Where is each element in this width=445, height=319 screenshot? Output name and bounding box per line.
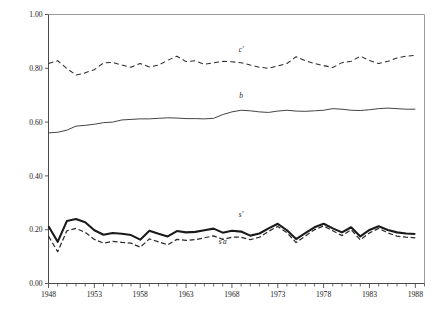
x-tick-label: 1963	[178, 290, 193, 299]
x-axis-tick-labels: 194819531958196319681973197819831988	[41, 290, 423, 299]
series-label-s: s'	[239, 210, 244, 219]
x-tick-label: 1988	[408, 290, 423, 299]
line-chart: 0.000.200.400.600.801.00 194819531958196…	[0, 0, 445, 319]
y-tick-label: 0.40	[29, 172, 42, 181]
y-tick-label: 0.20	[29, 225, 42, 234]
x-tick-label: 1968	[224, 290, 239, 299]
series-label-sa: s'a	[219, 237, 227, 246]
series-label-b: b	[239, 91, 243, 100]
x-tick-label: 1983	[362, 290, 377, 299]
y-tick-label: 0.60	[29, 118, 42, 127]
x-tick-label: 1953	[87, 290, 102, 299]
x-tick-label: 1978	[316, 290, 331, 299]
chart-background	[0, 0, 445, 319]
y-tick-label: 1.00	[29, 10, 42, 19]
x-tick-label: 1973	[270, 290, 285, 299]
x-tick-label: 1958	[133, 290, 148, 299]
y-tick-label: 0.00	[29, 279, 42, 288]
chart-container: 0.000.200.400.600.801.00 194819531958196…	[0, 0, 445, 319]
y-tick-label: 0.80	[29, 64, 42, 73]
x-tick-label: 1948	[41, 290, 56, 299]
series-label-c: c'	[239, 45, 244, 54]
